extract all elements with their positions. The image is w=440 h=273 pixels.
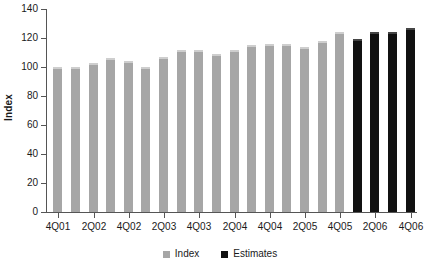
bar-chart: Index 020406080100120140 4Q012Q024Q022Q0…	[0, 0, 440, 273]
y-axis-tick	[41, 212, 46, 213]
y-axis-tick-label: 0	[0, 207, 38, 217]
bar-4q03	[194, 50, 203, 212]
bar-highlight	[370, 32, 379, 34]
x-axis-tick	[58, 213, 59, 218]
bar-highlight	[230, 50, 239, 52]
bar-highlight	[406, 28, 415, 30]
x-axis-tick-label: 2Q04	[215, 221, 255, 232]
bar-highlight	[247, 45, 256, 47]
bar-highlight	[194, 50, 203, 52]
bar-highlight	[71, 67, 80, 69]
bar-3q02	[106, 58, 115, 212]
bar-highlight	[89, 63, 98, 65]
bar-1q03	[141, 67, 150, 212]
bar-4q02	[124, 61, 133, 212]
bar-2q06	[370, 32, 379, 212]
bar-highlight	[318, 41, 327, 43]
y-axis-tick-label: 60	[0, 120, 38, 130]
bar-3q06	[388, 32, 397, 212]
bar-highlight	[335, 32, 344, 34]
bar-4q05	[335, 32, 344, 212]
y-axis-tick-label: 40	[0, 149, 38, 159]
x-axis-tick-label: 2Q06	[355, 221, 395, 232]
bar-highlight	[300, 47, 309, 49]
bar-3q04	[247, 45, 256, 212]
bar-highlight	[159, 57, 168, 59]
x-axis-tick	[199, 213, 200, 218]
chart-legend: IndexEstimates	[0, 249, 440, 259]
bar-2q05	[300, 47, 309, 212]
bar-4q04	[265, 44, 274, 212]
legend-swatch-icon	[163, 251, 170, 258]
x-axis-tick	[375, 213, 376, 218]
x-axis-tick-label: 2Q02	[74, 221, 114, 232]
bar-4q01	[53, 67, 62, 212]
y-axis-tick-label: 80	[0, 91, 38, 101]
x-axis-tick-label: 4Q02	[109, 221, 149, 232]
bar-highlight	[124, 61, 133, 63]
bar-highlight	[388, 32, 397, 34]
bar-highlight	[141, 67, 150, 69]
bar-2q04	[230, 50, 239, 212]
y-axis-tick-label: 100	[0, 62, 38, 72]
x-axis-line	[46, 212, 417, 213]
legend-label: Estimates	[233, 249, 277, 259]
x-axis-tick	[94, 213, 95, 218]
bar-1q04	[212, 54, 221, 212]
bar-highlight	[53, 67, 62, 69]
bar-1q06	[353, 39, 362, 212]
x-axis-tick-label: 4Q05	[320, 221, 360, 232]
legend-item-estimates[interactable]: Estimates	[221, 249, 277, 259]
bar-highlight	[282, 44, 291, 46]
bar-highlight	[106, 58, 115, 60]
bar-highlight	[265, 44, 274, 46]
bar-4q06	[406, 28, 415, 212]
x-axis-tick	[270, 213, 271, 218]
bar-3q05	[318, 41, 327, 212]
bar-highlight	[353, 39, 362, 41]
y-axis-tick-label: 120	[0, 33, 38, 43]
bar-1q02	[71, 67, 80, 212]
y-axis-tick-label: 20	[0, 178, 38, 188]
bar-3q03	[177, 50, 186, 212]
legend-swatch-icon	[221, 251, 228, 258]
y-axis-tick-label: 140	[0, 4, 38, 14]
x-axis-tick	[235, 213, 236, 218]
x-axis-tick-label: 4Q06	[391, 221, 431, 232]
bar-2q02	[89, 63, 98, 212]
bar-highlight	[212, 54, 221, 56]
x-axis-tick-label: 4Q04	[250, 221, 290, 232]
x-axis-tick-label: 4Q01	[38, 221, 78, 232]
x-axis-tick	[340, 213, 341, 218]
legend-item-index[interactable]: Index	[163, 249, 199, 259]
x-axis-tick	[305, 213, 306, 218]
bar-highlight	[177, 50, 186, 52]
bar-1q05	[282, 44, 291, 212]
x-axis-tick	[411, 213, 412, 218]
legend-label: Index	[175, 249, 199, 259]
x-axis-tick	[164, 213, 165, 218]
x-axis-tick-label: 4Q03	[179, 221, 219, 232]
x-axis-tick-label: 2Q05	[285, 221, 325, 232]
bar-series-group	[46, 9, 416, 212]
bar-2q03	[159, 57, 168, 212]
x-axis-tick	[129, 213, 130, 218]
x-axis-tick-label: 2Q03	[144, 221, 184, 232]
